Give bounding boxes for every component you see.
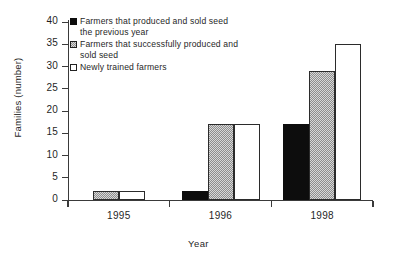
bar	[93, 191, 119, 200]
legend-item: Farmers that successfully produced and s…	[70, 39, 310, 60]
y-tick-label: 35	[18, 37, 58, 48]
y-tick	[62, 44, 68, 45]
bar	[234, 124, 260, 200]
x-axis-line	[68, 200, 373, 201]
bar	[335, 44, 361, 200]
y-tick-label: 20	[18, 104, 58, 115]
y-tick-label: 5	[18, 171, 58, 182]
bar	[182, 191, 208, 200]
x-axis-title: Year	[0, 238, 397, 249]
x-tick-label: 1995	[89, 210, 149, 221]
legend-item: Newly trained farmers	[70, 62, 310, 73]
y-tick	[62, 22, 68, 23]
legend-swatch-icon	[70, 64, 77, 71]
legend-swatch-icon	[70, 41, 77, 48]
bar-chart: Families (number) 0510152025303540 19951…	[0, 0, 397, 265]
y-tick	[62, 155, 68, 156]
y-tick-label: 40	[18, 15, 58, 26]
y-tick-label: 0	[18, 193, 58, 204]
y-tick-label: 25	[18, 82, 58, 93]
x-tick	[372, 201, 373, 207]
legend-label: Farmers that produced and sold seed the …	[80, 16, 228, 37]
x-tick-label: 1996	[191, 210, 251, 221]
legend-item: Farmers that produced and sold seed the …	[70, 16, 310, 37]
y-tick-label: 10	[18, 149, 58, 160]
y-tick	[62, 177, 68, 178]
bar	[309, 71, 335, 200]
y-tick	[62, 66, 68, 67]
x-tick	[67, 201, 68, 207]
bar	[283, 124, 309, 200]
y-tick	[62, 111, 68, 112]
x-tick	[169, 201, 170, 207]
y-tick-label: 15	[18, 126, 58, 137]
legend-label: Farmers that successfully produced and s…	[80, 39, 238, 60]
legend-label: Newly trained farmers	[80, 62, 167, 73]
y-tick-label: 30	[18, 60, 58, 71]
bar	[119, 191, 145, 200]
x-tick	[271, 201, 272, 207]
bar	[208, 124, 234, 200]
chart-legend: Farmers that produced and sold seed the …	[70, 16, 310, 75]
legend-swatch-icon	[70, 18, 77, 25]
y-tick	[62, 133, 68, 134]
y-tick	[62, 88, 68, 89]
x-tick-label: 1998	[292, 210, 352, 221]
